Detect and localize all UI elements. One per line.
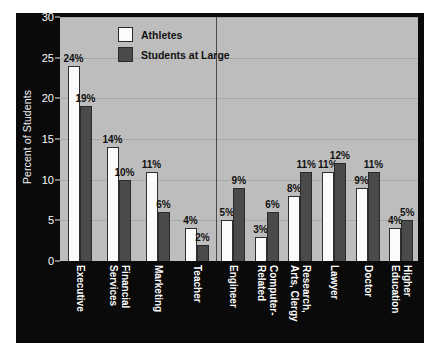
bar-students-at-large[interactable]: 5% bbox=[401, 220, 413, 261]
bar-students-at-large[interactable]: 12% bbox=[334, 163, 346, 261]
chart-legend: AthletesStudents at Large bbox=[118, 27, 230, 62]
bar-value-label: 11% bbox=[364, 159, 383, 170]
y-axis-title-text: Percent of Students bbox=[21, 90, 33, 184]
y-axis-tick-label: 0 bbox=[48, 255, 54, 267]
bar-value-label: 9% bbox=[232, 175, 246, 186]
bar-value-label: 2% bbox=[195, 232, 209, 243]
bar-value-label: 19% bbox=[75, 93, 95, 104]
y-axis-tick-label: 15 bbox=[42, 133, 54, 145]
legend-swatch bbox=[118, 47, 133, 62]
x-axis-tick-label: Education bbox=[384, 265, 400, 341]
bar-students-at-large[interactable]: 10% bbox=[119, 180, 131, 261]
bar-group: 5%9% bbox=[219, 188, 247, 261]
bar-students-at-large[interactable]: 11% bbox=[300, 172, 312, 261]
bar-value-label: 14% bbox=[102, 134, 122, 145]
bar-value-label: 10% bbox=[114, 167, 134, 178]
x-axis-tick-label: Services bbox=[102, 265, 118, 341]
legend-label: Athletes bbox=[141, 29, 182, 41]
bar-value-label: 11% bbox=[142, 159, 161, 170]
x-axis-tick-label: Lawyer bbox=[323, 265, 339, 341]
bar-athletes[interactable]: 11% bbox=[146, 172, 158, 261]
bar-group: 11%12% bbox=[320, 163, 348, 261]
bar-athletes[interactable]: 3% bbox=[255, 237, 267, 261]
bar-group: 9%11% bbox=[354, 172, 382, 261]
bar-group: 14%10% bbox=[105, 147, 133, 261]
bar-group: 4%2% bbox=[183, 228, 211, 261]
bar-group: 24%19% bbox=[66, 66, 94, 261]
bar-value-label: 6% bbox=[156, 199, 170, 210]
x-axis-tick-label: Marketing bbox=[147, 265, 163, 341]
bar-students-at-large[interactable]: 19% bbox=[80, 106, 92, 261]
bar-students-at-large[interactable]: 6% bbox=[158, 212, 170, 261]
bar-students-at-large[interactable]: 11% bbox=[368, 172, 380, 261]
x-axis-tick-label: Related bbox=[250, 265, 266, 341]
bar-group: 8%11% bbox=[286, 172, 314, 261]
x-axis-tick-label: Teacher bbox=[186, 265, 202, 341]
x-axis-tick-label: Executive bbox=[69, 265, 85, 341]
legend-label: Students at Large bbox=[141, 49, 230, 61]
x-axis-tick-label: Doctor bbox=[357, 265, 373, 341]
gridline bbox=[60, 58, 418, 59]
y-axis-tick-label: 10 bbox=[42, 174, 54, 186]
bar-value-label: 11% bbox=[296, 159, 315, 170]
bar-athletes[interactable]: 5% bbox=[221, 220, 233, 261]
y-axis-tick-label: 5 bbox=[48, 214, 54, 226]
bar-athletes[interactable]: 11% bbox=[322, 172, 334, 261]
y-axis-ticks: 051015202530 bbox=[34, 13, 60, 261]
bar-athletes[interactable]: 4% bbox=[389, 228, 401, 261]
x-axis-tick-label: Arts, Clergy bbox=[283, 265, 299, 341]
x-axis-labels: ExecutiveFinancialServicesMarketingTeach… bbox=[60, 263, 418, 339]
bar-students-at-large[interactable]: 9% bbox=[233, 188, 245, 261]
bar-athletes[interactable]: 9% bbox=[356, 188, 368, 261]
legend-item[interactable]: Athletes bbox=[118, 27, 230, 42]
bar-value-label: 4% bbox=[183, 215, 197, 226]
bar-value-label: 5% bbox=[400, 207, 414, 218]
bar-group: 3%6% bbox=[253, 212, 281, 261]
bar-athletes[interactable]: 8% bbox=[288, 196, 300, 261]
gridline bbox=[60, 98, 418, 99]
bar-students-at-large[interactable]: 2% bbox=[197, 245, 209, 261]
y-axis-tick-label: 30 bbox=[42, 11, 54, 23]
bar-value-label: 24% bbox=[63, 53, 83, 64]
bar-group: 11%6% bbox=[144, 172, 172, 261]
x-axis-tick-label: Engineer bbox=[222, 265, 238, 341]
bar-athletes[interactable]: 14% bbox=[107, 147, 119, 261]
y-axis-tick-label: 25 bbox=[42, 52, 54, 64]
bar-students-at-large[interactable]: 6% bbox=[267, 212, 279, 261]
chart-figure: Percent of Students 051015202530 Athlete… bbox=[16, 13, 424, 343]
bar-group: 4%5% bbox=[387, 220, 415, 261]
legend-swatch bbox=[118, 27, 133, 42]
legend-item[interactable]: Students at Large bbox=[118, 47, 230, 62]
bar-value-label: 6% bbox=[265, 199, 279, 210]
plot-area: AthletesStudents at Large 24%19%14%10%11… bbox=[60, 17, 418, 261]
gridline bbox=[60, 17, 418, 18]
bar-value-label: 12% bbox=[330, 150, 350, 161]
y-axis-tick-label: 20 bbox=[42, 92, 54, 104]
